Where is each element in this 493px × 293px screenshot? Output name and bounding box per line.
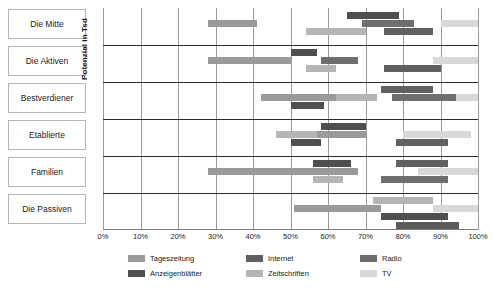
- legend-swatch: [246, 255, 263, 262]
- x-axis-tick-label: 30%: [199, 232, 233, 241]
- range-bar: [433, 57, 478, 64]
- category-separator: [103, 82, 478, 83]
- legend-swatch: [360, 270, 377, 277]
- legend-swatch: [360, 255, 377, 262]
- plot-area: [103, 8, 478, 230]
- category-label: Etablierte: [8, 120, 86, 150]
- x-axis-tick-label: 80%: [386, 232, 420, 241]
- range-bar: [294, 205, 380, 212]
- category-label: Bestverdiener: [8, 83, 86, 113]
- range-bar: [392, 94, 456, 101]
- legend-item: Tageszeitung: [128, 254, 194, 263]
- range-bar: [381, 213, 449, 220]
- range-bar: [321, 57, 359, 64]
- category-separator: [103, 156, 478, 157]
- range-bar: [321, 123, 366, 130]
- range-bar: [208, 168, 358, 175]
- range-bar: [291, 102, 325, 109]
- category-separator: [103, 119, 478, 120]
- legend: TageszeitungAnzeigenblätterInternetZeits…: [128, 254, 458, 288]
- legend-label: Radio: [382, 254, 402, 263]
- range-bar: [381, 86, 434, 93]
- range-bar: [291, 139, 321, 146]
- category-label: Die Mitte: [8, 9, 86, 39]
- range-bar: [441, 20, 479, 27]
- range-bar: [418, 168, 478, 175]
- legend-item: Internet: [246, 254, 293, 263]
- legend-item: Radio: [360, 254, 402, 263]
- range-bar: [291, 49, 317, 56]
- range-bar: [433, 205, 478, 212]
- range-bar: [313, 176, 343, 183]
- range-bar: [396, 160, 449, 167]
- x-axis-tick-label: 70%: [349, 232, 383, 241]
- legend-swatch: [128, 255, 145, 262]
- x-axis-tick-label: 10%: [124, 232, 158, 241]
- category-separator: [103, 45, 478, 46]
- range-bar: [313, 160, 351, 167]
- legend-label: Tageszeitung: [150, 254, 194, 263]
- legend-item: Zeitschriften: [246, 269, 309, 278]
- legend-item: TV: [360, 269, 392, 278]
- legend-swatch: [128, 270, 145, 277]
- x-axis-tick-label: 40%: [236, 232, 270, 241]
- legend-label: Zeitschriften: [268, 269, 309, 278]
- range-bar: [347, 12, 400, 19]
- x-axis-tick-label: 90%: [424, 232, 458, 241]
- range-bar: [208, 20, 257, 27]
- range-bar: [306, 65, 336, 72]
- range-bar: [456, 94, 479, 101]
- gridline: [478, 8, 479, 230]
- legend-label: Internet: [268, 254, 293, 263]
- range-bar: [396, 222, 460, 229]
- range-bar: [317, 131, 366, 138]
- x-axis-tick-label: 0%: [86, 232, 120, 241]
- range-bar: [396, 139, 449, 146]
- range-bar: [306, 28, 366, 35]
- legend-label: TV: [382, 269, 392, 278]
- category-separator: [103, 193, 478, 194]
- category-label: Die Aktiven: [8, 46, 86, 76]
- x-axis-tick-label: 100%: [461, 232, 493, 241]
- range-bar: [403, 131, 471, 138]
- x-axis-tick-label: 20%: [161, 232, 195, 241]
- category-label: Die Passiven: [8, 194, 86, 224]
- x-axis-tick-label: 60%: [311, 232, 345, 241]
- range-bar: [384, 28, 433, 35]
- range-bar: [336, 94, 377, 101]
- range-bar: [362, 20, 415, 27]
- x-axis-line: [103, 229, 478, 230]
- x-axis-tick-label: 50%: [274, 232, 308, 241]
- range-bar: [208, 57, 291, 64]
- range-bar: [384, 65, 440, 72]
- range-bar: [373, 197, 433, 204]
- legend-item: Anzeigenblätter: [128, 269, 202, 278]
- legend-label: Anzeigenblätter: [150, 269, 202, 278]
- legend-swatch: [246, 270, 263, 277]
- y-axis-title: Potenzial in Tsd: [80, 0, 89, 80]
- range-bar: [381, 176, 449, 183]
- category-label: Familien: [8, 157, 86, 187]
